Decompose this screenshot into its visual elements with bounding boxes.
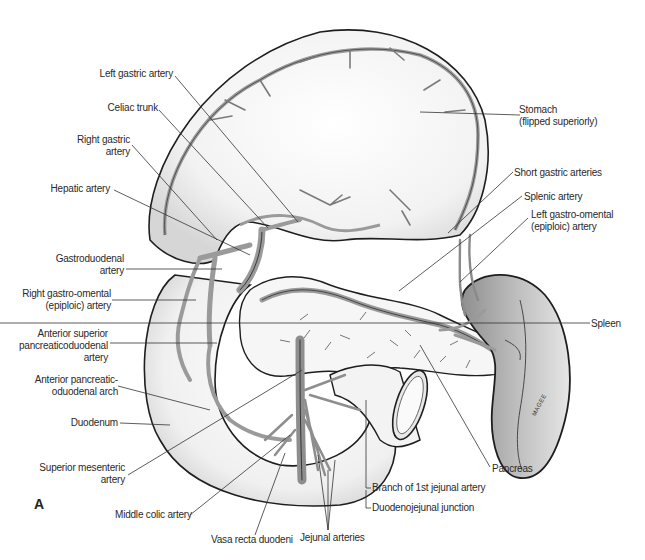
label-middle-colic-artery: Middle colic artery: [115, 509, 192, 521]
anatomy-figure: Left gastric artery Celiac trunk Right g…: [0, 0, 645, 560]
label-right-gastro-omental-artery: Right gastro-omental(epiploic) artery: [22, 288, 111, 312]
label-jejunal-arteries: Jejunal arteries: [300, 532, 365, 544]
label-text: Right gastro-omental: [22, 288, 111, 300]
label-text: Gastroduodenal: [56, 253, 124, 265]
label-text: Hepatic artery: [51, 183, 110, 194]
label-text: pancreaticoduodenal: [19, 340, 108, 352]
label-branch-1st-jejunal-artery: Branch of 1st jejunal artery: [372, 482, 485, 494]
label-text: Anterior superior: [19, 328, 108, 340]
label-anterior-pancreaticoduodenal-arch: Anterior pancreatic-oduodenal arch: [35, 374, 118, 398]
label-gastroduodenal-artery: Gastroduodenalartery: [56, 253, 124, 277]
label-text: Jejunal arteries: [300, 532, 365, 543]
label-anterior-superior-pancreaticoduodenal-artery: Anterior superiorpancreaticoduodenalarte…: [19, 328, 108, 364]
label-short-gastric-arteries: Short gastric arteries: [514, 167, 602, 179]
label-text: Spleen: [591, 318, 621, 329]
label-pancreas: Pancreas: [492, 463, 533, 475]
label-text: Short gastric arteries: [514, 167, 602, 178]
label-text: Branch of 1st jejunal artery: [372, 482, 485, 493]
label-text: Superior mesenteric: [39, 462, 125, 474]
label-text: Left gastro-omental: [531, 209, 613, 221]
label-text: Stomach: [519, 104, 597, 116]
label-text: Left gastric artery: [100, 68, 173, 79]
label-stomach: Stomach(flipped superiorly): [519, 104, 597, 128]
label-duodenum: Duodenum: [71, 417, 118, 429]
label-text: (flipped superiorly): [519, 116, 597, 128]
label-text: Duodenum: [71, 417, 118, 428]
label-text: (epiploic) artery: [22, 300, 111, 312]
label-celiac-trunk: Celiac trunk: [108, 102, 158, 114]
label-text: artery: [39, 474, 125, 486]
label-text: artery: [19, 352, 108, 364]
label-splenic-artery: Splenic artery: [524, 191, 582, 203]
stomach-shape: [149, 30, 488, 264]
label-text: Duodenojejunal junction: [372, 502, 474, 513]
label-text: oduodenal arch: [35, 386, 118, 398]
label-text: artery: [77, 146, 130, 158]
label-text: Splenic artery: [524, 191, 582, 202]
label-right-gastric-artery: Right gastricartery: [77, 134, 130, 158]
label-text: Anterior pancreatic-: [35, 374, 118, 386]
label-text: Vasa recta duodeni: [211, 534, 293, 545]
label-text: Right gastric: [77, 134, 130, 146]
spleen-shape: [462, 275, 570, 478]
label-text: Pancreas: [492, 463, 533, 474]
label-text: Celiac trunk: [108, 102, 158, 113]
label-left-gastric-artery: Left gastric artery: [100, 68, 173, 80]
label-vasa-recta-duodeni: Vasa recta duodeni: [211, 534, 293, 546]
label-text: artery: [56, 265, 124, 277]
label-left-gastro-omental-artery: Left gastro-omental(epiploic) artery: [531, 209, 613, 233]
label-hepatic-artery: Hepatic artery: [51, 183, 110, 195]
panel-letter: A: [34, 496, 44, 512]
label-text: Middle colic artery: [115, 509, 192, 520]
label-spleen: Spleen: [591, 318, 621, 330]
label-text: (epiploic) artery: [531, 221, 613, 233]
label-duodenojejunal-junction: Duodenojejunal junction: [372, 502, 474, 514]
label-superior-mesenteric-artery: Superior mesentericartery: [39, 462, 125, 486]
